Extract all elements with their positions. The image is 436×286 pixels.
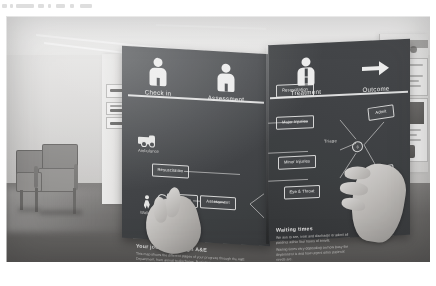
entry-ambulance: Ambulance bbox=[138, 135, 178, 155]
arrow-right-icon bbox=[361, 54, 391, 83]
copy-right-paragraph: We aim to see, treat and discharge or ad… bbox=[276, 232, 354, 246]
flow-node-admit: Admit bbox=[367, 104, 394, 121]
flow-node-resuscitation: Resuscitation bbox=[152, 164, 189, 179]
person-doctor-icon bbox=[295, 57, 317, 86]
waiting-room-chairs bbox=[16, 140, 108, 216]
flow-node-major-injuries: Major Injuries bbox=[276, 115, 314, 130]
flow-node-resuscitation-right: Resuscitation bbox=[276, 83, 314, 98]
person-icon bbox=[215, 63, 237, 92]
screenshot-root: Check in Assessment bbox=[0, 0, 436, 286]
top-artifact-strip bbox=[2, 2, 98, 11]
ambulance-icon bbox=[138, 135, 156, 147]
stage-assessment: Assessment bbox=[198, 62, 254, 103]
leaflet-fold-crease bbox=[266, 46, 269, 244]
photograph: Check in Assessment bbox=[6, 16, 430, 262]
flow-junction-3: 3 bbox=[352, 141, 363, 152]
stage-outcome: Outcome bbox=[348, 53, 404, 94]
person-icon bbox=[147, 57, 169, 86]
flow-node-assessment: Assessment bbox=[200, 195, 236, 210]
flow-node-minor-injuries: Minor Injuries bbox=[278, 155, 316, 170]
flow-node-eye-throat: Eye & Throat bbox=[284, 185, 320, 200]
stage-label: Assessment bbox=[198, 93, 254, 103]
copy-right-paragraph: Waiting times vary depending on how busy… bbox=[276, 244, 354, 262]
stage-check-in: Check in bbox=[130, 56, 186, 97]
entry-label: Ambulance bbox=[138, 148, 178, 155]
copy-right: Waiting times We aim to see, treat and d… bbox=[276, 223, 354, 262]
flow-caption-triage: Triage bbox=[324, 138, 337, 144]
